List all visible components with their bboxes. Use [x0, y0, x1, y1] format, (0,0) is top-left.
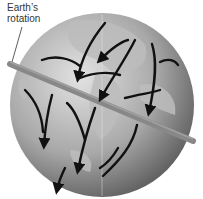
- globe-diagram: [0, 0, 203, 199]
- label-leader-line: [12, 27, 22, 62]
